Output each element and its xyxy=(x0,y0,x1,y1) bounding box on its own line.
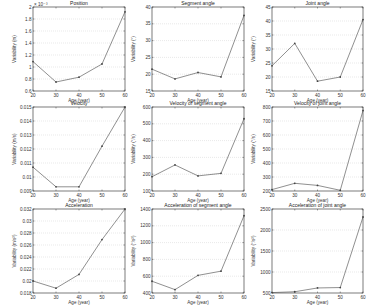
x-tick-label: 20 xyxy=(269,295,275,300)
y-tick-label: 2 xyxy=(29,5,32,10)
x-tick-label: 30 xyxy=(53,93,59,98)
plot-area xyxy=(152,209,244,293)
x-tick-label: 20 xyxy=(30,93,36,98)
y-tick-label: 0.015 xyxy=(20,105,32,110)
y-tick-label: 1400 xyxy=(140,207,151,212)
subplot-segment-angle: 1520253035402030405060Segment angleAge (… xyxy=(131,0,247,103)
x-tick-label: 20 xyxy=(149,93,155,98)
subplot-acceleration: 0.0180.020.0220.0240.0260.0280.030.03220… xyxy=(12,202,128,305)
data-point xyxy=(220,270,222,272)
data-point xyxy=(339,189,341,191)
plot-area xyxy=(33,209,125,293)
x-tick-label: 60 xyxy=(360,193,366,198)
x-tick-label: 60 xyxy=(241,295,247,300)
x-tick-label: 40 xyxy=(195,295,201,300)
x-tick-label: 50 xyxy=(218,193,224,198)
y-tick-label: 35 xyxy=(265,33,271,38)
figure-grid: 0.60.811.21.41.61.822030405060PositionAg… xyxy=(0,0,379,307)
x-axis-label: Age (year) xyxy=(307,300,329,305)
subplot-title: Segment angle xyxy=(181,0,215,6)
y-tick-label: 25 xyxy=(145,55,151,60)
data-point xyxy=(55,287,57,289)
y-axis-label: Variability (°/s) xyxy=(131,134,136,164)
data-point xyxy=(271,65,273,67)
subplot-acceleration-of-joint-angle: 50010001500200025002030405060Acceleratio… xyxy=(251,202,366,305)
y-tick-label: 0.026 xyxy=(20,243,32,248)
x-tick-label: 40 xyxy=(315,193,321,198)
subplot-title: Joint angle xyxy=(305,0,329,6)
x-tick-label: 60 xyxy=(241,93,247,98)
x-tick-label: 50 xyxy=(338,193,344,198)
x-tick-label: 20 xyxy=(149,193,155,198)
x-tick-label: 50 xyxy=(338,93,344,98)
plot-area xyxy=(152,107,244,191)
subplot-title: Acceleration of joint angle xyxy=(289,202,346,208)
data-point xyxy=(197,274,199,276)
x-tick-label: 30 xyxy=(292,193,298,198)
y-tick-label: 45 xyxy=(265,5,271,10)
y-axis-label: Variability (m) xyxy=(12,35,17,63)
x-tick-label: 50 xyxy=(99,93,105,98)
plot-area xyxy=(272,7,363,91)
y-tick-label: 0.022 xyxy=(20,267,32,272)
y-axis-label: Variability (°/s²) xyxy=(131,235,136,266)
subplot-title: Position xyxy=(70,0,88,6)
x-tick-label: 60 xyxy=(241,193,247,198)
x-tick-label: 30 xyxy=(292,295,298,300)
y-axis-label: Variability (°) xyxy=(251,36,256,62)
y-tick-label: 30 xyxy=(265,47,271,52)
x-axis-label: Age (year) xyxy=(68,300,90,305)
y-tick-label: 700 xyxy=(263,119,271,124)
data-point xyxy=(220,76,222,78)
y-tick-label: 400 xyxy=(143,138,151,143)
x-tick-label: 20 xyxy=(269,93,275,98)
x-tick-label: 30 xyxy=(172,295,178,300)
y-tick-label: 2500 xyxy=(260,207,271,212)
y-tick-label: 1000 xyxy=(260,270,271,275)
data-point xyxy=(197,72,199,74)
data-point xyxy=(78,274,80,276)
x-tick-label: 50 xyxy=(218,295,224,300)
y-tick-label: 800 xyxy=(263,105,271,110)
data-point xyxy=(55,81,57,83)
y-tick-label: 600 xyxy=(143,105,151,110)
data-point xyxy=(174,289,176,291)
data-point xyxy=(124,11,126,13)
y-tick-label: 600 xyxy=(143,274,151,279)
data-point xyxy=(55,186,57,188)
x-tick-label: 60 xyxy=(360,295,366,300)
x-tick-label: 50 xyxy=(218,93,224,98)
data-point xyxy=(362,110,364,112)
y-tick-label: 1200 xyxy=(140,223,151,228)
data-point xyxy=(101,239,103,241)
y-tick-label: 35 xyxy=(145,21,151,26)
subplot-title: Velocity of joint angle xyxy=(294,100,341,106)
y-tick-label: 0.011 xyxy=(20,161,32,166)
data-point xyxy=(124,106,126,108)
data-point xyxy=(197,175,199,177)
subplot-position: 0.60.811.21.41.61.822030405060PositionAg… xyxy=(12,0,128,103)
y-axis-label: Variability (m/s) xyxy=(12,133,17,165)
data-point xyxy=(317,80,319,82)
data-point xyxy=(294,291,296,293)
y-tick-label: 0.01 xyxy=(23,175,32,180)
y-tick-label: 1 xyxy=(29,65,32,70)
y-tick-label: 0.024 xyxy=(20,255,32,260)
data-point xyxy=(101,63,103,65)
x-tick-label: 60 xyxy=(122,193,128,198)
y-tick-label: 0.013 xyxy=(20,133,32,138)
y-tick-label: 1000 xyxy=(140,240,151,245)
data-point xyxy=(101,145,103,147)
y-tick-label: 1.8 xyxy=(25,17,32,22)
data-point xyxy=(151,176,153,178)
data-point xyxy=(243,215,245,217)
y-tick-label: 300 xyxy=(263,175,271,180)
data-point xyxy=(317,185,319,187)
x-tick-label: 30 xyxy=(53,295,59,300)
x-tick-label: 40 xyxy=(76,295,82,300)
x-tick-label: 50 xyxy=(338,295,344,300)
y-tick-label: 1.2 xyxy=(25,53,32,58)
y-tick-label: 0.032 xyxy=(20,207,32,212)
data-point xyxy=(243,118,245,120)
x-tick-label: 50 xyxy=(99,193,105,198)
